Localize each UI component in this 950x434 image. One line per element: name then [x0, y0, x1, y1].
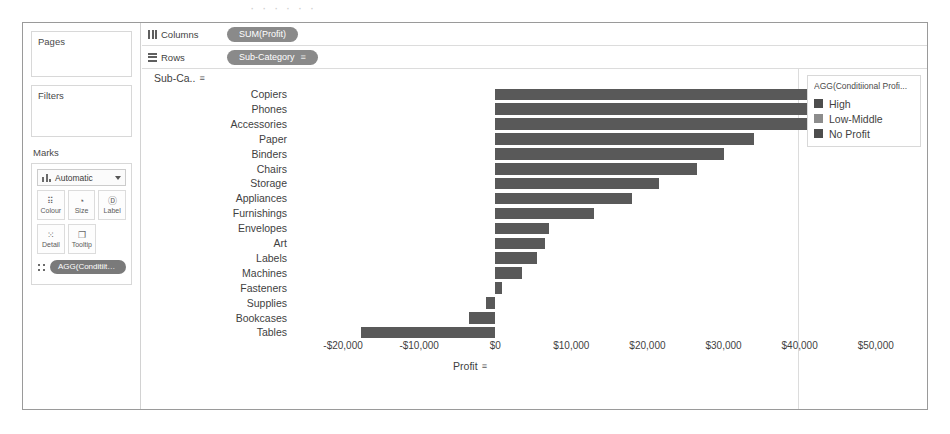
filters-shelf-label: Filters — [32, 86, 131, 101]
legend-item[interactable]: Low-Middle — [814, 111, 914, 126]
category-label[interactable]: Tables — [142, 325, 287, 340]
category-label[interactable]: Paper — [142, 132, 287, 147]
bar-row: Supplies — [142, 296, 798, 311]
pages-shelf[interactable]: Pages — [31, 31, 132, 77]
category-label[interactable]: Copiers — [142, 87, 287, 102]
tooltip-icon: ❐ — [78, 230, 86, 240]
bar-row: Storage — [142, 176, 798, 191]
bar-row: Phones — [142, 102, 798, 117]
colour-encoding-icon — [37, 263, 46, 272]
bar-row: Bookcases — [142, 311, 798, 326]
size-icon: ◔ — [79, 196, 84, 206]
rows-shelf[interactable]: Rows Sub-Category ≡ — [142, 46, 927, 69]
header-sort-icon[interactable]: ≡ — [199, 73, 204, 83]
columns-shelf-label: Columns — [157, 29, 227, 40]
category-label[interactable]: Phones — [142, 102, 287, 117]
x-axis-tick-label: -$10,000 — [399, 340, 438, 351]
bar-mark[interactable] — [495, 133, 754, 145]
bar-row: Machines — [142, 266, 798, 281]
bar-row: Chairs — [142, 162, 798, 177]
marks-colour-encoding-row: AGG(Conditiito... — [37, 260, 126, 274]
legend-item-label: High — [829, 98, 851, 110]
axis-sort-icon[interactable]: ≡ — [482, 361, 487, 371]
marks-card: Automatic ⠿ Colour ◔ Size Ⓓ Label — [31, 163, 132, 285]
x-axis: Profit ≡ -$20,000-$10,000$0$10,000$20,00… — [142, 340, 798, 380]
size-button[interactable]: ◔ Size — [68, 190, 96, 220]
bar-mark[interactable] — [495, 148, 723, 160]
detail-button-label: Detail — [42, 241, 60, 248]
legend-item[interactable]: No Profit — [814, 126, 914, 141]
legend-item-label: Low-Middle — [829, 113, 883, 125]
legend-item-list: HighLow-MiddleNo Profit — [814, 96, 914, 141]
category-label[interactable]: Furnishings — [142, 206, 287, 221]
bar-chart-icon — [42, 174, 51, 182]
tooltip-button[interactable]: ❐ Tooltip — [68, 224, 96, 254]
category-label[interactable]: Art — [142, 236, 287, 251]
bar-mark[interactable] — [361, 327, 496, 339]
x-axis-tick-label: $40,000 — [782, 340, 818, 351]
category-label[interactable]: Bookcases — [142, 311, 287, 326]
bar-mark[interactable] — [495, 208, 594, 220]
legend-title: AGG(Conditiional Profi... — [814, 81, 914, 91]
category-label[interactable]: Machines — [142, 266, 287, 281]
columns-pill-sum-profit[interactable]: SUM(Profit) — [227, 27, 298, 42]
marks-card-label: Marks — [33, 147, 59, 158]
tableau-worksheet: Pages Filters Marks Automatic ⠿ Colour ◔… — [22, 22, 928, 410]
sort-icon[interactable]: ≡ — [301, 50, 306, 65]
legend-item[interactable]: High — [814, 96, 914, 111]
bar-mark[interactable] — [486, 297, 495, 309]
pages-shelf-label: Pages — [32, 32, 131, 47]
bar-mark[interactable] — [495, 252, 537, 264]
label-button-label: Label — [104, 207, 121, 214]
chart-view: Sub-Ca.. ≡ CopiersPhonesAccessoriesPaper… — [142, 69, 799, 409]
label-button[interactable]: Ⓓ Label — [98, 190, 126, 220]
columns-shelf[interactable]: Columns SUM(Profit) — [142, 23, 927, 46]
colour-icon: ⠿ — [47, 196, 54, 206]
category-label[interactable]: Supplies — [142, 296, 287, 311]
bar-mark[interactable] — [495, 282, 502, 294]
colour-button[interactable]: ⠿ Colour — [37, 190, 65, 220]
category-label[interactable]: Binders — [142, 147, 287, 162]
category-label[interactable]: Storage — [142, 176, 287, 191]
x-axis-tick-label: $20,000 — [629, 340, 665, 351]
rows-pill-sub-category[interactable]: Sub-Category ≡ — [227, 50, 318, 65]
marks-colour-pill[interactable]: AGG(Conditiito... — [50, 260, 126, 274]
bar-row: Tables — [142, 325, 798, 340]
category-label[interactable]: Appliances — [142, 191, 287, 206]
bar-row: Fasteners — [142, 281, 798, 296]
x-axis-tick-label: $30,000 — [705, 340, 741, 351]
page-text-remnant: · · · · · · — [250, 0, 700, 16]
bar-mark[interactable] — [495, 103, 822, 115]
bar-mark[interactable] — [495, 238, 544, 250]
bar-mark[interactable] — [495, 178, 659, 190]
chevron-down-icon — [115, 176, 121, 180]
bar-mark[interactable] — [495, 193, 632, 205]
mark-type-dropdown[interactable]: Automatic — [37, 169, 126, 186]
category-label[interactable]: Accessories — [142, 117, 287, 132]
bar-mark[interactable] — [469, 312, 496, 324]
category-label[interactable]: Envelopes — [142, 221, 287, 236]
category-label[interactable]: Fasteners — [142, 281, 287, 296]
x-axis-tick-label: $10,000 — [553, 340, 589, 351]
filters-shelf[interactable]: Filters — [31, 85, 132, 137]
bar-row: Paper — [142, 132, 798, 147]
mark-type-value: Automatic — [51, 173, 115, 183]
x-axis-title[interactable]: Profit ≡ — [453, 360, 487, 372]
bar-plot-area: CopiersPhonesAccessoriesPaperBindersChai… — [142, 87, 798, 340]
bar-row: Accessories — [142, 117, 798, 132]
detail-button[interactable]: ⁙ Detail — [37, 224, 65, 254]
category-label[interactable]: Chairs — [142, 162, 287, 177]
legend-swatch — [814, 129, 823, 138]
rows-icon — [148, 53, 157, 62]
bar-mark[interactable] — [495, 267, 522, 279]
marks-button-row-1: ⠿ Colour ◔ Size Ⓓ Label — [37, 190, 126, 220]
category-label[interactable]: Labels — [142, 251, 287, 266]
bar-mark[interactable] — [495, 223, 548, 235]
bar-mark[interactable] — [495, 163, 697, 175]
row-field-header[interactable]: Sub-Ca.. ≡ — [154, 72, 205, 84]
label-icon: Ⓓ — [108, 196, 117, 206]
bar-row: Furnishings — [142, 206, 798, 221]
columns-pill-label: SUM(Profit) — [239, 27, 286, 42]
bar-row: Binders — [142, 147, 798, 162]
bar-mark[interactable] — [495, 118, 807, 130]
